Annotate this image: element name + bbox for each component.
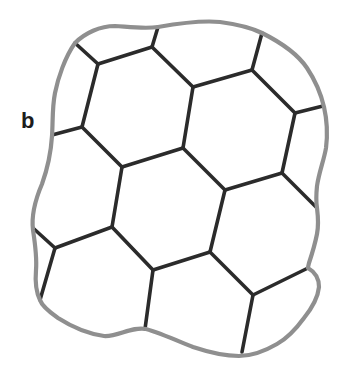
cell-edge-h2-n3 xyxy=(183,87,193,148)
cell-edge-n6-bR2 xyxy=(282,173,317,208)
cell-edge-h5-h6 xyxy=(112,227,153,270)
cell-edge-n8-bB1 xyxy=(40,248,55,300)
cell-edge-h4-n9 xyxy=(210,252,253,295)
cell-edge-h3-h4 xyxy=(210,190,225,252)
cell-edge-n4-n5 xyxy=(252,70,295,113)
panel-label: b xyxy=(21,110,34,132)
cell-edge-h6-h1 xyxy=(112,167,122,227)
figure-panel: b xyxy=(0,0,349,369)
cell-edge-n7-h1 xyxy=(82,127,122,167)
cell-edge-n5-n6 xyxy=(282,113,295,173)
cell-edge-n5-bR1 xyxy=(295,106,323,113)
cell-edge-h2-h3 xyxy=(183,148,225,190)
cell-edge-n9-bR3 xyxy=(253,268,308,295)
grain-network-svg xyxy=(0,0,349,369)
cell-edge-n3-n4 xyxy=(193,70,252,87)
cell-edge-n2-n3 xyxy=(152,47,193,87)
cell-edge-n1-n2 xyxy=(98,47,152,64)
cell-edge-h6-n8 xyxy=(55,227,112,248)
cell-edge-n6-h3 xyxy=(225,173,282,190)
cell-edge-h1-h2 xyxy=(122,148,183,167)
cell-edge-bTL-n1 xyxy=(75,43,98,64)
cell-edge-n1-n7 xyxy=(82,64,98,127)
cell-edge-n9-bB3 xyxy=(242,295,253,352)
cell-edge-n4-bT2 xyxy=(252,33,262,70)
cell-edge-n7-bL1 xyxy=(52,127,82,135)
cell-edge-h5-bB2 xyxy=(145,270,153,329)
cell-edge-n2-bT1 xyxy=(152,27,158,47)
cell-edge-h4-h5 xyxy=(153,252,210,270)
